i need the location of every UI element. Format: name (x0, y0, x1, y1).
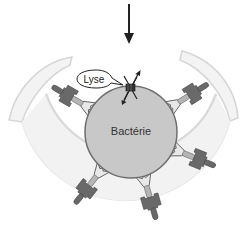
lysis-label: Lyse (84, 74, 105, 85)
bacterium: Bactérie (85, 86, 177, 178)
down-arrow-icon (124, 4, 134, 44)
diagram-canvas: Bactérie Lyse (0, 0, 242, 239)
bacterium-label: Bactérie (111, 125, 151, 137)
lysis-callout: Lyse (77, 70, 123, 88)
